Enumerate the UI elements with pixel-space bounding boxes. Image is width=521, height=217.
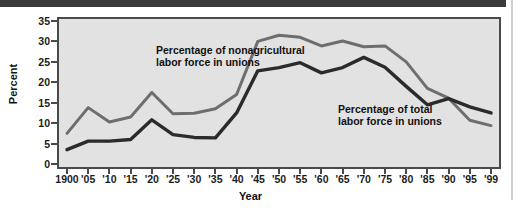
y-axis-tick-mark	[51, 40, 57, 42]
x-axis-tick-label: '99	[471, 173, 511, 185]
y-axis-tick-mark	[51, 143, 57, 145]
y-axis-tick-label: 35	[26, 16, 50, 26]
y-axis-tick-mark	[51, 163, 57, 165]
y-axis-title: Percent	[7, 49, 19, 119]
y-axis-tick-label: 0	[26, 159, 50, 169]
x-axis-tick-mark	[490, 169, 492, 174]
top-decorative-rule	[0, 0, 506, 7]
y-axis-tick-label: 20	[26, 77, 50, 87]
y-axis-tick-mark	[51, 61, 57, 63]
annotation-total: Percentage of total labor force in union…	[338, 104, 442, 127]
y-axis-tick-label: 10	[26, 118, 50, 128]
x-axis-title: Year	[0, 190, 501, 202]
y-axis-tick-label: 30	[26, 36, 50, 46]
y-axis-tick-mark	[51, 122, 57, 124]
annotation-nonagricultural: Percentage of nonagricultural labor forc…	[156, 45, 305, 68]
y-axis-tick-mark	[51, 81, 57, 83]
y-axis-tick-mark	[51, 20, 57, 22]
right-decorative-rule	[511, 0, 513, 200]
y-axis-tick-label: 15	[26, 98, 50, 108]
y-axis-tick-label: 25	[26, 57, 50, 67]
plot-area: Percentage of nonagricultural labor forc…	[57, 17, 501, 169]
chart-lines	[59, 19, 499, 167]
y-axis-tick-label: 5	[26, 139, 50, 149]
y-axis-tick-labels: 05101520253035	[22, 0, 50, 217]
y-axis-tick-mark	[51, 102, 57, 104]
union-membership-chart: Percent Year 05101520253035 Percentage o…	[0, 0, 521, 217]
